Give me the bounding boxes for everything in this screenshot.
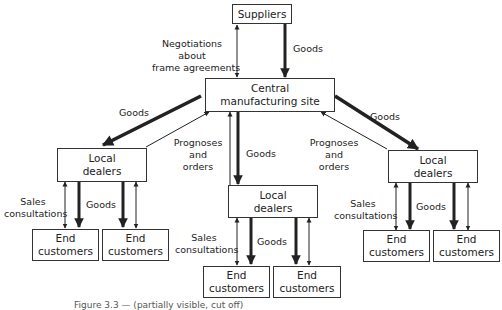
label-goods-suppliers: Goods [293, 43, 323, 55]
label-line: Sales [4, 196, 62, 208]
node-local-dealers-middle: Local dealers [228, 185, 318, 218]
label-sales-left: Sales consultations [4, 196, 62, 220]
label-sales-right: Sales consultations [334, 198, 392, 222]
node-label: dealers [254, 202, 293, 215]
node-end-customers-4: End customers [273, 266, 341, 298]
label-goods-left-customers: Goods [86, 199, 116, 211]
node-label: End [457, 233, 477, 246]
label-line: and [306, 149, 362, 161]
label-prognoses-right: Prognoses and orders [306, 137, 362, 173]
label-negotiations: Negotiations about frame agreements [152, 38, 232, 74]
label-prognoses-left: Prognoses and orders [170, 137, 226, 173]
node-label: customers [280, 282, 335, 295]
node-end-customers-2: End customers [102, 229, 169, 261]
node-label: End [297, 269, 317, 282]
node-label: Local [88, 152, 115, 165]
node-label: End [387, 233, 407, 246]
label-goods-right-customers: Goods [416, 201, 446, 213]
node-label: End [56, 232, 76, 245]
node-label: End [227, 269, 247, 282]
node-label: dealers [414, 167, 453, 180]
label-line: Prognoses [170, 137, 226, 149]
figure-caption: Figure 3.3 — (partially visible, cut off… [74, 300, 243, 310]
label-line: consultations [4, 208, 62, 220]
node-end-customers-3: End customers [203, 266, 270, 298]
label-line: Negotiations [152, 38, 232, 50]
label-goods-left: Goods [119, 107, 149, 119]
node-suppliers-label: Suppliers [238, 8, 287, 21]
node-label: End [126, 232, 146, 245]
label-line: consultations [334, 210, 392, 222]
label-line: Sales [334, 198, 392, 210]
label-line: Sales [175, 232, 233, 244]
node-label: Local [259, 189, 286, 202]
node-central-manufacturing-site: Central manufacturing site [205, 78, 335, 112]
node-local-dealers-left: Local dealers [57, 148, 147, 182]
node-end-customers-1: End customers [32, 229, 99, 261]
label-goods-middle-customers: Goods [257, 236, 287, 248]
label-line: and [170, 149, 226, 161]
node-label: Local [419, 154, 446, 167]
label-line: consultations [175, 244, 233, 256]
node-suppliers: Suppliers [232, 4, 292, 24]
label-sales-middle: Sales consultations [175, 232, 233, 256]
label-line: frame agreements [152, 62, 232, 74]
node-label: customers [209, 282, 264, 295]
node-label: customers [108, 245, 163, 258]
node-central-line1: Central [251, 82, 289, 95]
node-central-line2: manufacturing site [220, 95, 320, 108]
label-line: orders [306, 161, 362, 173]
node-end-customers-5: End customers [363, 230, 430, 262]
label-line: about [152, 50, 232, 62]
node-end-customers-6: End customers [433, 230, 500, 262]
node-label: dealers [83, 165, 122, 178]
node-label: customers [439, 246, 494, 259]
label-goods-right: Goods [370, 111, 400, 123]
node-label: customers [38, 245, 93, 258]
node-label: customers [369, 246, 424, 259]
label-line: orders [170, 161, 226, 173]
label-line: Prognoses [306, 137, 362, 149]
label-goods-middle: Goods [246, 148, 276, 160]
node-local-dealers-right: Local dealers [388, 150, 478, 183]
